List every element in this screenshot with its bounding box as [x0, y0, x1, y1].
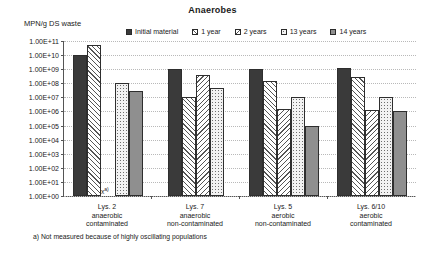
- x-axis-label-line: Lys. 7: [151, 203, 239, 212]
- y-axis-tick-label: 1.00E+01: [29, 178, 59, 185]
- x-axis-label-line: Lys. 5: [239, 203, 327, 212]
- x-axis-category-label: Lys. 5aerobicnon-contaminated: [239, 203, 327, 229]
- bar: [73, 55, 87, 196]
- bar: [305, 126, 319, 196]
- x-axis-label-line: contaminated: [63, 220, 151, 229]
- legend-swatch-icon: [126, 29, 132, 35]
- bar: [351, 77, 365, 196]
- chart-legend: Initial material1 year2 years13 years14 …: [126, 28, 366, 35]
- bar: [393, 111, 407, 196]
- bar: [196, 75, 210, 196]
- x-axis-label-line: anaerobic: [63, 212, 151, 221]
- bar: [182, 97, 196, 196]
- legend-item-1: Initial material: [126, 28, 178, 35]
- y-axis-tick-label: 1.00E+06: [29, 108, 59, 115]
- axis-group-separator: [327, 196, 328, 199]
- legend-item-2: 1 year: [192, 28, 220, 35]
- x-axis-label-line: non-contaminated: [239, 220, 327, 229]
- bar-group: [152, 41, 240, 196]
- legend-item-3: 2 years: [235, 28, 267, 35]
- x-axis-label-line: aerobic: [239, 212, 327, 221]
- y-axis-tick-label: 1.00E+04: [29, 136, 59, 143]
- bar-group: xa): [64, 41, 152, 196]
- missing-value-label: xa): [101, 186, 109, 195]
- y-axis-tick-label: 1.00E+07: [29, 94, 59, 101]
- bar: [291, 97, 305, 196]
- x-axis-label-line: anaerobic: [151, 212, 239, 221]
- y-axis-tick-label: 1.00E+00: [29, 193, 59, 200]
- legend-label: 14 years: [339, 28, 366, 35]
- bar-groups: xa): [64, 41, 416, 196]
- axis-group-separator: [239, 196, 240, 199]
- legend-label: Initial material: [135, 28, 178, 35]
- x-axis-label-line: non-contaminated: [151, 220, 239, 229]
- x-axis-category-label: Lys. 7anaerobicnon-contaminated: [151, 203, 239, 229]
- bar: [210, 88, 224, 196]
- bar: [277, 109, 291, 196]
- plot-area: 1.00E+111.00E+101.00E+091.00E+081.00E+07…: [63, 41, 416, 197]
- y-axis-tick-label: 1.00E+05: [29, 122, 59, 129]
- x-axis-category-label: Lys. 2anaerobiccontaminated: [63, 203, 151, 229]
- bar: [129, 91, 143, 196]
- y-axis-label: MPN/g DS waste: [24, 19, 81, 28]
- x-axis-label-line: aerobic: [327, 212, 415, 221]
- bar: [87, 45, 101, 196]
- y-axis-tick-label: 1.00E+10: [29, 52, 59, 59]
- legend-swatch-icon: [281, 29, 287, 35]
- bar-group: [328, 41, 416, 196]
- chart-root: Anaerobes MPN/g DS waste Initial materia…: [0, 0, 425, 255]
- legend-item-4: 13 years: [281, 28, 317, 35]
- legend-label: 1 year: [201, 28, 220, 35]
- legend-label: 13 years: [290, 28, 317, 35]
- x-axis-label-line: Lys. 2: [63, 203, 151, 212]
- legend-item-5: 14 years: [330, 28, 366, 35]
- bar: [263, 81, 277, 196]
- y-axis-tick-label: 1.00E+09: [29, 66, 59, 73]
- y-axis-tick-label: 1.00E+08: [29, 80, 59, 87]
- y-axis-tick-label: 1.00E+03: [29, 150, 59, 157]
- bar: [337, 68, 351, 196]
- bar: [379, 97, 393, 196]
- y-axis-tick-label: 1.00E+02: [29, 164, 59, 171]
- x-axis-category-label: Lys. 6/10aerobiccontaminated: [327, 203, 415, 229]
- chart-footnote: a) Not measured because of highly oscill…: [33, 233, 207, 240]
- y-axis-tick-label: 1.00E+11: [29, 38, 59, 45]
- bar-group: [240, 41, 328, 196]
- legend-swatch-icon: [330, 29, 336, 35]
- chart-title: Anaerobes: [0, 5, 425, 15]
- x-axis-label-line: contaminated: [327, 220, 415, 229]
- bar: [249, 69, 263, 196]
- bar: [115, 83, 129, 196]
- x-axis-label-line: Lys. 6/10: [327, 203, 415, 212]
- bar: [168, 69, 182, 196]
- gridline: [64, 196, 416, 197]
- legend-label: 2 years: [244, 28, 267, 35]
- legend-swatch-icon: [235, 29, 241, 35]
- legend-swatch-icon: [192, 29, 198, 35]
- missing-value-marker: xa): [101, 184, 115, 196]
- x-axis-labels: Lys. 2anaerobiccontaminatedLys. 7anaerob…: [63, 203, 415, 229]
- bar: [365, 110, 379, 196]
- y-axis-tick: [61, 196, 64, 197]
- axis-group-separator: [151, 196, 152, 199]
